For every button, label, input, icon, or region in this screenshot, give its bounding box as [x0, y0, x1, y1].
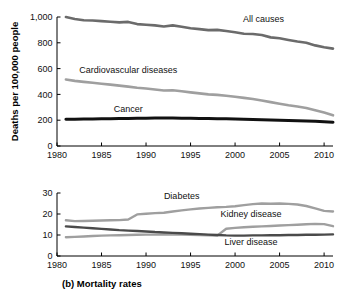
y-tick-label: 20: [42, 209, 52, 219]
y-tick-label: 200: [37, 115, 52, 125]
y-tick-label: 10: [42, 230, 52, 240]
x-tick-label: 2005: [270, 150, 290, 160]
y-tick-label: 30: [42, 188, 52, 198]
series-line-cardiovascular-diseases: [66, 80, 333, 116]
series-line-diabetes: [66, 204, 333, 222]
x-tick-label: 1990: [136, 150, 156, 160]
x-tick-label: 2000: [225, 260, 245, 270]
x-tick-label: 2000: [225, 150, 245, 160]
x-tick-label: 1995: [181, 150, 201, 160]
x-tick-label: 1980: [47, 150, 67, 160]
axis-spines: [57, 17, 333, 146]
series-label-liver-disease: Liver disease: [225, 237, 278, 247]
x-tick-label: 2005: [270, 260, 290, 270]
x-tick-label: 1985: [92, 260, 112, 270]
series-line-liver-disease: [66, 226, 333, 235]
panel-top-panel: 02004006008001,0001980198519901995200020…: [30, 12, 334, 159]
figure-caption: (b) Mortality rates: [62, 278, 142, 289]
x-tick-label: 2010: [314, 260, 334, 270]
y-tick-label: 1,000: [30, 12, 53, 22]
x-tick-label: 1980: [47, 260, 67, 270]
series-label-cardiovascular-diseases: Cardiovascular diseases: [79, 65, 178, 75]
y-axis-title: Deaths per 100,000 people: [9, 22, 20, 141]
series-line-cancer: [66, 118, 333, 122]
series-label-kidney-disease: Kidney disease: [221, 209, 282, 219]
mortality-chart-svg: 02004006008001,0001980198519901995200020…: [0, 0, 345, 299]
y-tick-label: 600: [37, 64, 52, 74]
y-tick-label: 800: [37, 38, 52, 48]
series-label-all-causes: All causes: [243, 14, 285, 24]
series-label-cancer: Cancer: [114, 104, 143, 114]
x-tick-label: 1990: [136, 260, 156, 270]
y-tick-label: 400: [37, 90, 52, 100]
panel-bottom-panel: 01020301980198519901995200020052010Diabe…: [42, 188, 334, 269]
mortality-rates-figure: 02004006008001,0001980198519901995200020…: [0, 0, 345, 299]
x-tick-label: 1995: [181, 260, 201, 270]
x-tick-label: 1985: [92, 150, 112, 160]
series-label-diabetes: Diabetes: [164, 191, 200, 201]
x-tick-label: 2010: [314, 150, 334, 160]
series-line-all-causes: [66, 17, 333, 49]
